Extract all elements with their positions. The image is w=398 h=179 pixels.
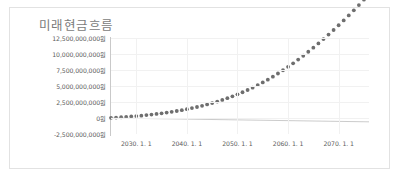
- data-point: [246, 88, 250, 92]
- x-axis-tick-labels: 2030. 1. 12040. 1. 12050. 1. 12060. 1. 1…: [111, 140, 369, 154]
- gridline-vertical: [288, 38, 289, 134]
- x-axis-tick-label: 2040. 1. 1: [172, 140, 203, 147]
- chart-frame: 미래현금흐름 12,500,000,000원10,000,000,000원7,5…: [9, 7, 390, 169]
- y-axis-tick-label: 10,000,000,000원: [20, 50, 106, 59]
- data-point: [337, 23, 341, 27]
- data-point: [225, 96, 229, 100]
- data-point: [180, 108, 184, 112]
- data-point: [160, 111, 164, 115]
- data-point: [347, 14, 351, 18]
- data-point: [145, 113, 149, 117]
- data-point: [170, 110, 174, 114]
- gridline-vertical: [339, 38, 340, 134]
- x-axis-tick-label: 2050. 1. 1: [222, 140, 253, 147]
- data-point: [342, 19, 346, 23]
- y-axis-tick-label: 2,500,000,000원: [20, 98, 106, 107]
- gridline-vertical: [237, 38, 238, 134]
- gridline-vertical: [136, 38, 137, 134]
- data-point: [175, 109, 179, 113]
- data-point: [317, 42, 321, 46]
- gridline-horizontal: [111, 54, 369, 55]
- data-point: [241, 90, 245, 94]
- gridline-horizontal: [111, 118, 369, 119]
- data-point: [291, 61, 295, 65]
- data-point: [362, 0, 366, 2]
- data-point: [332, 28, 336, 32]
- data-point: [190, 106, 194, 110]
- gridline-horizontal: [111, 38, 369, 39]
- data-point: [296, 58, 300, 62]
- data-point: [155, 112, 159, 116]
- data-point: [357, 3, 361, 7]
- y-axis-tick-label: 0원: [20, 114, 106, 123]
- gridline-horizontal: [111, 86, 369, 87]
- gridline-horizontal: [111, 102, 369, 103]
- data-point: [276, 72, 280, 76]
- data-point: [271, 75, 275, 79]
- data-point: [261, 81, 265, 85]
- y-axis-tick-label: -2,500,000,000원: [20, 130, 106, 139]
- data-point: [231, 94, 235, 98]
- data-point: [352, 8, 356, 12]
- x-axis-tick-label: 2030. 1. 1: [121, 140, 152, 147]
- y-axis-tick-label: 7,500,000,000원: [20, 66, 106, 75]
- y-axis-tick-labels: 12,500,000,000원10,000,000,000원7,500,000,…: [18, 8, 106, 179]
- data-point: [165, 111, 169, 115]
- x-axis-tick-label: 2060. 1. 1: [273, 140, 304, 147]
- y-axis-tick-label: 5,000,000,000원: [20, 82, 106, 91]
- data-point: [150, 113, 154, 117]
- data-point: [195, 105, 199, 109]
- y-axis-tick-label: 12,500,000,000원: [20, 34, 106, 43]
- x-axis-tick-label: 2070. 1. 1: [323, 140, 354, 147]
- data-point: [139, 114, 143, 118]
- data-point: [200, 104, 204, 108]
- gridline-vertical: [187, 38, 188, 134]
- data-point: [266, 78, 270, 82]
- data-point: [327, 33, 331, 37]
- data-point: [311, 46, 315, 50]
- data-point: [205, 103, 209, 107]
- gridline-horizontal: [111, 70, 369, 71]
- plot-area: [111, 38, 369, 134]
